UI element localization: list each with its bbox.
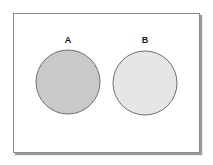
venn-diagram: A B xyxy=(0,0,213,165)
set-b: B xyxy=(113,35,177,115)
set-a-label: A xyxy=(65,35,72,45)
set-b-label: B xyxy=(142,35,149,45)
set-a: A xyxy=(36,35,100,114)
set-b-circle xyxy=(113,51,177,115)
set-a-circle xyxy=(36,50,100,114)
